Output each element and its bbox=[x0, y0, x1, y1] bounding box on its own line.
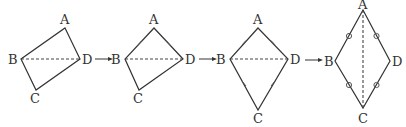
label-a: A bbox=[252, 12, 263, 27]
label-a: A bbox=[59, 12, 70, 27]
rhombus-abcd bbox=[335, 10, 390, 108]
label-b: B bbox=[8, 52, 18, 67]
arrow-icon bbox=[305, 58, 323, 62]
label-a: A bbox=[357, 0, 368, 12]
label-d: D bbox=[82, 52, 92, 67]
folding-diagram: A B D C A B D C A B D C bbox=[0, 0, 406, 127]
label-c: C bbox=[133, 91, 143, 106]
quadrilateral-abcd bbox=[125, 28, 183, 90]
label-b: B bbox=[111, 52, 121, 67]
label-d: D bbox=[392, 54, 402, 69]
equal-mark-icon bbox=[167, 41, 171, 46]
label-c: C bbox=[30, 91, 40, 106]
label-b: B bbox=[324, 54, 334, 69]
label-d: D bbox=[290, 52, 300, 67]
arrow-icon bbox=[199, 57, 217, 61]
label-d: D bbox=[185, 52, 195, 67]
equal-mark-icon bbox=[138, 41, 142, 46]
figure-4: A B D C bbox=[324, 0, 402, 126]
figure-3: A B D C bbox=[216, 12, 300, 126]
diagram-canvas: A B D C A B D C A B D C bbox=[0, 0, 406, 127]
label-c: C bbox=[253, 111, 263, 126]
label-c: C bbox=[358, 111, 368, 126]
label-b: B bbox=[216, 52, 226, 67]
label-a: A bbox=[148, 12, 159, 27]
figure-2: A B D C bbox=[111, 12, 195, 106]
figure-1: A B D C bbox=[8, 12, 92, 106]
quadrilateral-abcd bbox=[230, 28, 288, 110]
